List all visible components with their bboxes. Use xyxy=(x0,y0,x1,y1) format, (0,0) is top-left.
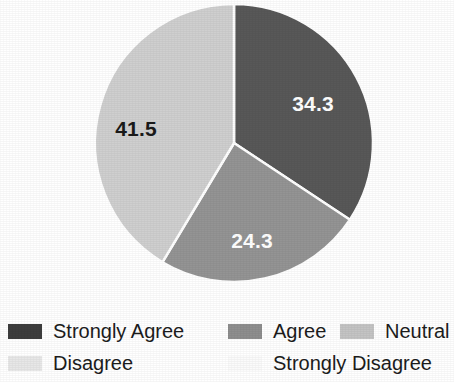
chart-legend: Strongly AgreeAgreeNeutral DisagreeStron… xyxy=(0,300,454,382)
pie-slice-value-label: 41.5 xyxy=(115,117,157,141)
legend-row: Strongly AgreeAgreeNeutral xyxy=(0,316,454,346)
pie-slice-value-label: 34.3 xyxy=(292,92,334,116)
pie-slice-value-label: 24.3 xyxy=(231,229,273,253)
legend-item-disagree[interactable]: Disagree xyxy=(8,348,133,378)
legend-item-label: Disagree xyxy=(53,353,133,373)
legend-swatch-icon xyxy=(228,324,262,339)
legend-item-label: Neutral xyxy=(385,321,449,341)
legend-item-strongly-agree[interactable]: Strongly Agree xyxy=(8,316,184,346)
legend-item-label: Strongly Disagree xyxy=(273,353,432,373)
pie-chart-svg xyxy=(0,0,454,292)
pie-chart-plot-area: 34.324.341.5 xyxy=(0,0,454,292)
legend-item-agree[interactable]: Agree xyxy=(228,316,326,346)
legend-item-label: Agree xyxy=(273,321,326,341)
legend-item-neutral[interactable]: Neutral xyxy=(340,316,449,346)
legend-swatch-icon xyxy=(340,324,374,339)
legend-swatch-icon xyxy=(8,324,42,339)
legend-item-label: Strongly Agree xyxy=(53,321,184,341)
legend-swatch-icon xyxy=(228,356,262,371)
legend-row: DisagreeStrongly Disagree xyxy=(0,348,454,378)
legend-swatch-icon xyxy=(8,356,42,371)
pie-chart-figure: 34.324.341.5 Strongly AgreeAgreeNeutral … xyxy=(0,0,454,382)
legend-item-strongly-disagree[interactable]: Strongly Disagree xyxy=(228,348,432,378)
